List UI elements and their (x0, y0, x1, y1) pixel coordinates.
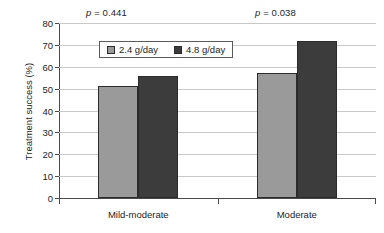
legend-label-1: 4.8 g/day (186, 44, 225, 55)
bar-moderate-48[interactable] (297, 41, 337, 199)
p-value-annotation-moderate: p = 0.038 (255, 7, 296, 18)
bar-moderate-24[interactable] (257, 73, 297, 198)
y-tick-mark-20 (55, 154, 59, 155)
x-axis-tick-2 (375, 199, 376, 204)
y-tick-label-0: 0 (48, 193, 53, 204)
y-tick-mark-80 (55, 23, 59, 24)
y-tick-mark-30 (55, 132, 59, 133)
y-axis-title: Treatment success (%) (23, 32, 34, 192)
x-category-label-0: Mild-moderate (108, 209, 169, 220)
legend-label-0: 2.4 g/day (119, 44, 158, 55)
y-tick-label-20: 20 (42, 149, 53, 160)
legend: 2.4 g/day4.8 g/day (99, 41, 233, 58)
x-axis-tick-1 (218, 199, 219, 204)
y-tick-mark-50 (55, 89, 59, 90)
gridline-80 (59, 23, 376, 24)
legend-swatch-icon-1 (174, 46, 182, 54)
x-category-label-1: Moderate (277, 209, 317, 220)
p-value-text: = 0.038 (260, 7, 295, 18)
x-axis-tick-0 (59, 199, 60, 204)
y-tick-mark-40 (55, 111, 59, 112)
y-tick-label-50: 50 (42, 83, 53, 94)
y-tick-mark-10 (55, 176, 59, 177)
y-tick-mark-60 (55, 67, 59, 68)
y-tick-label-10: 10 (42, 171, 53, 182)
p-value-annotation-mild-moderate: p = 0.441 (86, 7, 127, 18)
bar-chart: p = 0.441 p = 0.038 Treatment success (%… (0, 0, 384, 233)
y-tick-label-80: 80 (42, 18, 53, 29)
legend-item-0[interactable]: 2.4 g/day (107, 44, 158, 55)
y-tick-label-60: 60 (42, 61, 53, 72)
y-tick-label-30: 30 (42, 127, 53, 138)
legend-swatch-icon-0 (107, 46, 115, 54)
bar-mild-moderate-24[interactable] (98, 86, 138, 198)
y-tick-label-70: 70 (42, 39, 53, 50)
p-value-text: = 0.441 (91, 7, 126, 18)
y-tick-label-40: 40 (42, 105, 53, 116)
bar-mild-moderate-48[interactable] (138, 76, 178, 199)
y-tick-mark-70 (55, 45, 59, 46)
x-axis-ticks (59, 199, 376, 205)
legend-item-1[interactable]: 4.8 g/day (174, 44, 225, 55)
